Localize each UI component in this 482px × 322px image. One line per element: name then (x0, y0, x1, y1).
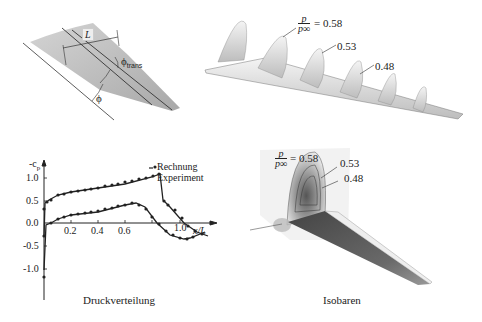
phi-trans-subscript: trans (127, 62, 143, 69)
xtick-10: 1.0 (174, 222, 187, 233)
isobar-caption: Isobaren (323, 294, 361, 306)
isobar-label-048: 0.48 (344, 172, 363, 184)
isobar-label-053: 0.53 (340, 157, 359, 169)
x-axis-label: x/L (193, 225, 206, 236)
isobar-pressure-ratio: p p∞ (275, 149, 287, 168)
isobar-label-058: = 0.58 (290, 152, 318, 164)
surface-label-053: 0.53 (337, 40, 356, 52)
phi-label: ϕ (96, 92, 102, 104)
legend-experiment: Experiment (157, 172, 204, 183)
xtick-02: 0.2 (64, 225, 77, 236)
phi-trans-label: ϕtrans (121, 55, 142, 69)
length-label: L (82, 28, 94, 41)
xtick-04: 0.4 (91, 225, 104, 236)
y-axis-label: -cp (29, 158, 40, 172)
planform-drawing (0, 0, 482, 322)
ratio-denominator: p∞ (298, 24, 310, 33)
chart-caption: Druckverteilung (83, 294, 155, 306)
ytick-1: 1.0 (26, 172, 39, 183)
ytick-m05: -0.5 (23, 240, 39, 251)
xtick-06: 0.6 (118, 225, 131, 236)
surface-label-058: = 0.58 (314, 17, 342, 29)
surface-label-048: 0.48 (375, 60, 394, 72)
ratio-denominator: p∞ (275, 159, 287, 168)
legend-rechnung: Rechnung (157, 161, 198, 172)
ytick-05: 0.5 (26, 195, 39, 206)
ytick-m1: -1.0 (23, 263, 39, 274)
surface-pressure-ratio: p p∞ (298, 14, 310, 33)
ytick-0: 0.0 (26, 217, 39, 228)
